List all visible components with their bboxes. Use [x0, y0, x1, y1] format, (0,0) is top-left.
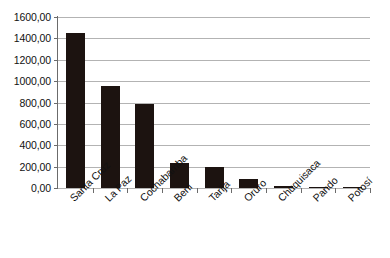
- gridline: [58, 81, 370, 82]
- x-tick: [335, 188, 336, 193]
- y-tick: [54, 60, 58, 61]
- x-tick: [93, 188, 94, 193]
- bar: [170, 163, 189, 188]
- gridline: [58, 17, 370, 18]
- x-tick: [162, 188, 163, 193]
- x-tick: [127, 188, 128, 193]
- bar: [274, 186, 293, 188]
- bar: [239, 179, 258, 188]
- x-tick: [301, 188, 302, 193]
- x-tick: [266, 188, 267, 193]
- y-tick-label: 600,00: [19, 119, 51, 130]
- bar-chart: 0,00200,00400,00600,00800,001000,001200,…: [0, 0, 390, 258]
- x-tick: [231, 188, 232, 193]
- y-tick-label: 0,00: [31, 183, 51, 194]
- y-tick-label: 800,00: [19, 97, 51, 108]
- x-tick: [370, 188, 371, 193]
- y-tick-label: 1600,00: [14, 12, 51, 23]
- bar: [135, 104, 154, 188]
- y-tick: [54, 145, 58, 146]
- y-tick: [54, 188, 58, 189]
- gridline: [58, 38, 370, 39]
- bar: [66, 33, 85, 189]
- y-tick-label: 1200,00: [14, 55, 51, 66]
- y-tick-label: 1400,00: [14, 33, 51, 44]
- y-tick: [54, 167, 58, 168]
- bar: [309, 187, 328, 188]
- plot-area: 0,00200,00400,00600,00800,001000,001200,…: [58, 17, 370, 188]
- y-tick: [54, 124, 58, 125]
- gridline: [58, 60, 370, 61]
- bar: [343, 187, 362, 188]
- y-tick-label: 400,00: [19, 140, 51, 151]
- y-tick-label: 1000,00: [14, 76, 51, 87]
- y-tick: [54, 38, 58, 39]
- bar: [101, 86, 120, 188]
- bar: [205, 167, 224, 188]
- y-tick: [54, 17, 58, 18]
- y-tick-label: 200,00: [19, 161, 51, 172]
- x-tick: [197, 188, 198, 193]
- y-tick: [54, 81, 58, 82]
- gridline: [58, 188, 370, 189]
- y-tick: [54, 103, 58, 104]
